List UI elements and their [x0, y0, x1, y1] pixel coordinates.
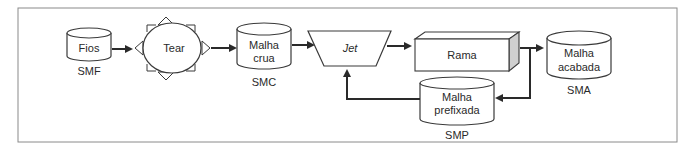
- node-malha-crua: Malha crua SMC: [237, 23, 291, 88]
- node-malha-crua-label-1: Malha: [249, 39, 280, 51]
- diagram-frame: [18, 8, 227, 142]
- node-malha-prefixada: Malha prefixada SMP: [420, 77, 494, 141]
- node-jet-label: Jet: [342, 42, 359, 54]
- node-rama-label: Rama: [447, 49, 477, 61]
- process-flow-diagram: Fios SMF Tear Malha crua SMC Jet: [0, 0, 696, 153]
- node-fios-caption: SMF: [77, 65, 101, 77]
- node-malha-acabada: Malha acabada SMA: [547, 31, 611, 96]
- node-malha-acabada-label-1: Malha: [564, 47, 595, 59]
- node-malha-prefixada-label-1: Malha: [442, 91, 473, 103]
- node-tear-label: Tear: [163, 42, 185, 54]
- node-malha-prefixada-caption: SMP: [445, 129, 469, 141]
- node-rama: Rama: [415, 32, 519, 71]
- node-fios-label: Fios: [79, 42, 100, 54]
- node-malha-acabada-caption: SMA: [567, 84, 592, 96]
- node-jet: Jet: [308, 31, 391, 66]
- node-fios: Fios SMF: [67, 28, 111, 77]
- node-malha-crua-label-2: crua: [253, 52, 275, 64]
- node-tear: Tear: [135, 17, 210, 80]
- node-malha-acabada-label-2: acabada: [558, 61, 601, 73]
- node-malha-prefixada-label-2: prefixada: [434, 104, 480, 116]
- edge-malha-prefixada-jet: [347, 71, 420, 100]
- node-malha-crua-caption: SMC: [252, 76, 277, 88]
